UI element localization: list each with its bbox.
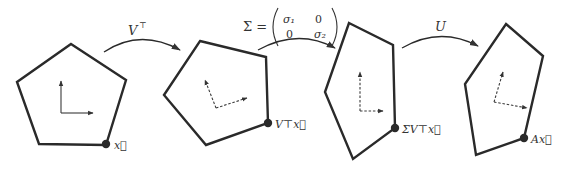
vt-transform-sup: ⊤ (139, 21, 147, 30)
polygon-shape (164, 41, 268, 145)
sigma-vt-x-label: ΣV⊤x⃗ (401, 123, 441, 136)
basis-arrow-icon (216, 98, 247, 108)
matrix-cell-10: 0 (286, 28, 293, 41)
transform-arrow-icon (402, 36, 478, 48)
point-dot-icon (264, 119, 272, 127)
point-dot-icon (520, 134, 528, 142)
x-vector-label: x⃗ (114, 139, 127, 152)
matrix-cell-11: σ₂ (314, 28, 326, 41)
matrix-cell-01: 0 (315, 13, 322, 26)
stage-original (17, 44, 126, 148)
u-transform-label: U (435, 19, 447, 34)
point-dot-icon (102, 140, 110, 148)
matrix-cell-00: σ₁ (283, 13, 295, 26)
basis-arrow-icon (494, 72, 503, 102)
svd-diagram: x⃗ V⊤x⃗ ΣV⊤x⃗ Ax⃗ V ⊤ Σ = σ₁ 0 0 σ₂ U (0, 0, 564, 171)
stage-after-Sigma (325, 23, 399, 159)
stages-group (17, 23, 543, 159)
basis-arrow-icon (205, 80, 216, 108)
left-paren (273, 8, 278, 46)
transform-arrow-icon (104, 39, 180, 52)
vt-transform-label: V (128, 23, 139, 38)
stage-after-VT (164, 41, 272, 145)
right-paren (332, 8, 337, 46)
polygon-shape (17, 44, 126, 145)
sigma-eq-label: Σ = (243, 19, 267, 34)
point-dot-icon (391, 124, 399, 132)
basis-arrow-icon (494, 102, 527, 108)
polygon-shape (325, 23, 395, 159)
vt-x-label: V⊤x⃗ (275, 118, 306, 131)
ax-label: Ax⃗ (530, 133, 552, 146)
